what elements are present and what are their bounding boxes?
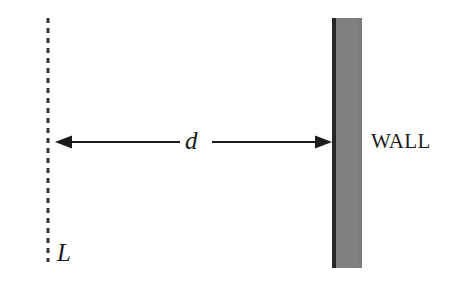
line-label-L: L bbox=[57, 240, 71, 265]
distance-label-d: d bbox=[185, 128, 198, 153]
physics-diagram-canvas: d L WALL bbox=[0, 0, 461, 288]
wall-face-edge bbox=[332, 18, 336, 268]
wall-text-label: WALL bbox=[371, 131, 431, 152]
wall-right-shade bbox=[358, 18, 362, 268]
